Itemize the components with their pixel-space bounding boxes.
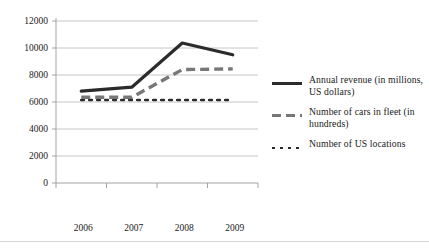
legend-label: Number of cars in fleet (in hundreds) [309,106,428,129]
x-tick-label: 2008 [159,222,210,238]
dotted-line-icon [272,141,302,155]
x-tick-label: 2006 [58,222,109,238]
legend-item-locations: Number of US locations [272,138,428,155]
x-tick-label: 2009 [210,222,261,238]
legend-item-fleet: Number of cars in fleet (in hundreds) [272,106,428,129]
legend-item-revenue: Annual revenue (in millions, US dollars) [272,74,428,97]
series-line-fleet [81,69,233,97]
series-line-revenue [81,43,233,91]
legend-label: Annual revenue (in millions, US dollars) [309,74,428,97]
y-axis-ticks [52,21,56,183]
legend-label: Number of US locations [309,138,406,150]
plot-area: 12000 10000 8000 6000 4000 2000 0 [0,0,270,248]
chart-canvas [0,0,270,248]
solid-line-icon [272,77,302,91]
bottom-divider [0,241,429,242]
gridlines [56,21,258,156]
x-axis-tick-labels: 2006 2007 2008 2009 [58,222,260,238]
x-axis-ticks [56,183,258,188]
dashed-line-icon [272,109,302,123]
line-chart-figure: 12000 10000 8000 6000 4000 2000 0 [0,0,429,248]
x-tick-label: 2007 [109,222,160,238]
chart-legend: Annual revenue (in millions, US dollars)… [272,74,428,164]
